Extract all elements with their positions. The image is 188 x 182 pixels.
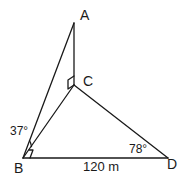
geometry-figure: A C B D 37° 78° 120 m — [0, 0, 188, 182]
point-label-c: C — [83, 74, 93, 88]
point-label-d: D — [167, 157, 177, 171]
angle-arc-b — [30, 141, 32, 147]
segment-cd — [74, 85, 168, 158]
segment-ab — [23, 23, 74, 158]
triangle-diagram — [0, 0, 188, 182]
angle-label-abc: 37° — [10, 125, 28, 137]
point-label-b: B — [14, 161, 23, 175]
right-angle-mark-b — [29, 150, 33, 158]
length-label-bd: 120 m — [83, 160, 119, 173]
point-label-a: A — [80, 8, 89, 22]
segment-bc — [23, 85, 74, 158]
angle-label-bdc: 78° — [129, 143, 147, 155]
